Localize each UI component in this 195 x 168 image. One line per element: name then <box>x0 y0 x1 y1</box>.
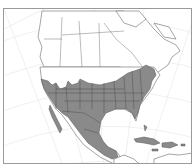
range-cuba <box>134 137 160 145</box>
range-jamaica <box>152 149 158 151</box>
range-bahamas <box>144 125 147 131</box>
land-north <box>38 11 180 75</box>
range-puerto-rico <box>181 144 185 146</box>
range-map <box>4 9 192 164</box>
map-frame <box>3 8 192 164</box>
range-hispaniola <box>162 142 178 148</box>
